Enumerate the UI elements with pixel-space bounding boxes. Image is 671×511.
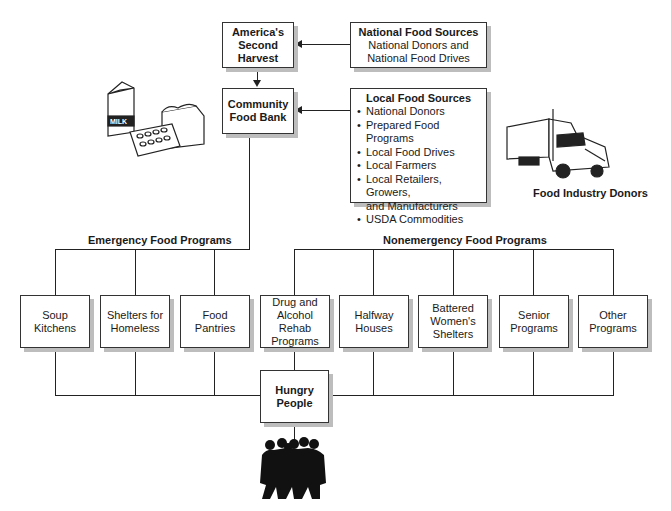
program-senior-programs: Senior Programs <box>499 295 569 348</box>
program-other-programs: Other Programs <box>578 295 648 348</box>
local-sources-list: National Donors Prepared Food Programs L… <box>357 105 480 227</box>
list-item: USDA Commodities <box>357 213 480 227</box>
local-food-sources-box: Local Food Sources National Donors Prepa… <box>350 88 487 203</box>
program-line: Drug and <box>272 296 317 309</box>
community-food-bank-box: Community Food Bank <box>222 88 294 134</box>
americas-second-harvest-box: America's Second Harvest <box>222 22 294 68</box>
local-title: Local Food Sources <box>366 92 471 105</box>
program-food-pantries: Food Pantries <box>180 295 250 348</box>
program-line: Halfway <box>354 309 393 322</box>
national-line2: National Food Drives <box>367 52 470 65</box>
list-item: Prepared Food Programs <box>357 119 480 146</box>
national-title: National Food Sources <box>359 26 479 39</box>
people-silhouette-icon <box>258 437 330 501</box>
program-line: Pantries <box>195 322 235 335</box>
emergency-bus <box>55 249 250 250</box>
local-to-community-line <box>295 110 350 111</box>
national-line1: National Donors and <box>368 39 468 52</box>
nonemergency-programs-label: Nonemergency Food Programs <box>383 234 547 246</box>
food-industry-donors-label: Food Industry Donors <box>533 187 648 199</box>
hungry-line1: Hungry <box>275 384 314 397</box>
program-shelters-homeless: Shelters for Homeless <box>100 295 170 348</box>
list-item: Local Farmers <box>357 159 480 173</box>
program-line: Programs <box>589 322 637 335</box>
program-halfway-houses: Halfway Houses <box>339 295 409 348</box>
program-line: Programs <box>510 322 558 335</box>
groceries-icon: MILK <box>100 72 210 162</box>
program-line: Houses <box>355 322 392 335</box>
nonemergency-bus <box>294 249 614 250</box>
program-line: Shelters for <box>107 309 163 322</box>
program-soup-kitchens: Soup Kitchens <box>20 295 90 348</box>
arrow-into-america <box>295 40 302 48</box>
program-line: Programs <box>271 335 319 348</box>
community-line1: Community <box>228 98 289 111</box>
program-line: Homeless <box>111 322 160 335</box>
program-line: Senior <box>518 309 550 322</box>
program-line: Battered <box>432 302 474 315</box>
americas-line1: America's <box>232 26 284 39</box>
program-drug-alcohol-rehab: Drug and Alcohol Rehab Programs <box>260 295 330 348</box>
bottom-bus <box>55 395 614 396</box>
program-line: Kitchens <box>34 322 76 335</box>
hungry-people-box: Hungry People <box>260 370 329 423</box>
truck-icon <box>505 105 620 185</box>
national-to-america-line <box>295 44 350 45</box>
list-item-continuation: and Manufacturers <box>357 200 480 214</box>
program-line: Alcohol Rehab <box>261 309 329 335</box>
arrow-into-community <box>295 106 302 114</box>
emergency-programs-label: Emergency Food Programs <box>88 234 232 246</box>
list-item: Local Retailers, Growers, <box>357 173 480 200</box>
community-line2: Food Bank <box>230 111 287 124</box>
program-line: Shelters <box>433 328 473 341</box>
list-item: National Donors <box>357 105 480 119</box>
program-line: Women's <box>430 315 475 328</box>
arrow-into-community-top <box>253 80 261 87</box>
program-line: Food <box>202 309 227 322</box>
program-battered-womens-shelters: Battered Women's Shelters <box>418 295 488 348</box>
list-item: Local Food Drives <box>357 146 480 160</box>
milk-label: MILK <box>110 118 127 125</box>
program-line: Other <box>599 309 627 322</box>
hungry-line2: People <box>276 397 312 410</box>
community-down-line <box>249 133 250 249</box>
national-food-sources-box: National Food Sources National Donors an… <box>350 22 487 68</box>
program-line: Soup <box>42 309 68 322</box>
americas-line2: Second Harvest <box>223 39 293 65</box>
